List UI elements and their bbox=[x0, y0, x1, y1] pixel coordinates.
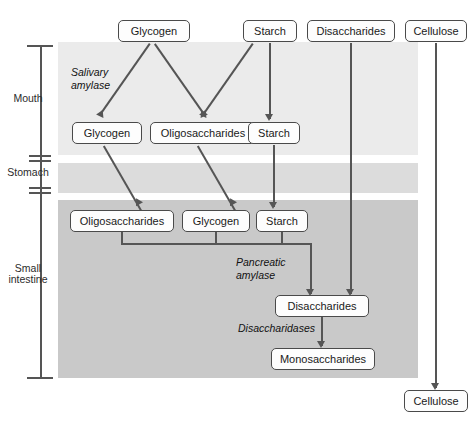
region-band-stomach bbox=[58, 163, 418, 193]
node-intestine-oligosaccharides[interactable]: Oligosaccharides bbox=[70, 210, 174, 232]
enzyme-label-pancreatic-amylase: Pancreatic amylase bbox=[236, 256, 286, 281]
edge-merge-bus bbox=[121, 243, 311, 245]
node-mouth-glycogen[interactable]: Glycogen bbox=[72, 122, 142, 144]
scale-cap-bottom bbox=[27, 377, 53, 379]
enzyme-label-salivary-amylase: Salivary amylase bbox=[71, 66, 110, 91]
arrowhead-cellulose-bypass bbox=[431, 383, 439, 390]
scale-divider-lower-a bbox=[29, 187, 51, 189]
node-intestine-starch[interactable]: Starch bbox=[256, 210, 308, 232]
node-input-disaccharides[interactable]: Disaccharides bbox=[307, 20, 395, 42]
region-label-small-intestine-line2: intestine bbox=[0, 274, 56, 286]
arrowhead-intestine-starch bbox=[269, 202, 277, 209]
node-input-starch[interactable]: Starch bbox=[243, 20, 297, 42]
node-disaccharides[interactable]: Disaccharides bbox=[275, 295, 369, 317]
edge-disaccharides-bypass bbox=[350, 43, 352, 294]
enzyme-label-disaccharidases: Disaccharidases bbox=[238, 322, 315, 335]
node-input-cellulose[interactable]: Cellulose bbox=[405, 20, 467, 42]
arrowhead-monosaccharides bbox=[317, 341, 325, 348]
node-input-glycogen[interactable]: Glycogen bbox=[118, 20, 190, 42]
node-output-cellulose[interactable]: Cellulose bbox=[404, 390, 468, 412]
edge-starch-to-mouth-starch bbox=[269, 43, 271, 119]
node-mouth-starch[interactable]: Starch bbox=[248, 122, 300, 144]
region-label-mouth: Mouth bbox=[0, 93, 56, 105]
node-monosaccharides[interactable]: Monosaccharides bbox=[271, 348, 375, 370]
digestion-diagram: Mouth Stomach Small intestine Glycogen S… bbox=[0, 0, 476, 430]
edge-bus-to-disaccharides bbox=[310, 243, 312, 294]
arrowhead-mouth-starch bbox=[265, 114, 273, 121]
anatomy-scale: Mouth Stomach Small intestine bbox=[0, 0, 58, 430]
node-mouth-oligosaccharides[interactable]: Oligosaccharides bbox=[150, 122, 256, 144]
edge-cellulose-bypass bbox=[435, 43, 437, 388]
edge-mouth-starch-to-intestine-starch bbox=[273, 145, 275, 207]
region-label-stomach: Stomach bbox=[0, 167, 56, 179]
node-intestine-glycogen[interactable]: Glycogen bbox=[182, 210, 250, 232]
